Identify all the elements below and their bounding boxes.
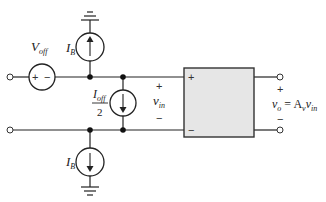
node-dot (120, 127, 126, 133)
svg-text:−: − (188, 124, 194, 136)
circuit-diagram: + − Voff IB Ioff 2 IB (0, 0, 326, 202)
ground-icon-top (81, 12, 99, 20)
label-voff: Voff (31, 39, 49, 56)
svg-text:Ioff: Ioff (92, 87, 107, 103)
input-terminal-bottom (7, 127, 13, 133)
svg-text:−: − (277, 113, 283, 125)
svg-text:+: + (156, 80, 162, 92)
amplifier-box (184, 68, 254, 137)
output-terminal-top (277, 74, 283, 80)
svg-text:−: − (156, 112, 162, 124)
current-source-ioff-half (110, 90, 136, 116)
input-terminal-top (7, 74, 13, 80)
label-ioff-half: Ioff 2 (92, 87, 108, 118)
current-source-ib-bottom (76, 148, 104, 176)
node-dot (87, 127, 93, 133)
voltage-source-voff: + − (29, 64, 55, 90)
svg-text:−: − (44, 71, 50, 83)
node-dot (120, 74, 126, 80)
svg-text:+: + (32, 71, 38, 83)
svg-text:2: 2 (97, 106, 103, 118)
label-ib-bottom: IB (65, 154, 75, 171)
label-ib-top: IB (65, 40, 75, 57)
label-vin: vin (153, 93, 165, 110)
label-vout-equation: vo = Avvin (272, 97, 317, 113)
current-source-ib-top (76, 33, 104, 61)
node-dot (87, 74, 93, 80)
output-terminal-bottom (277, 127, 283, 133)
ground-icon-bottom (81, 187, 99, 195)
svg-text:+: + (277, 83, 283, 95)
svg-text:+: + (188, 71, 194, 83)
